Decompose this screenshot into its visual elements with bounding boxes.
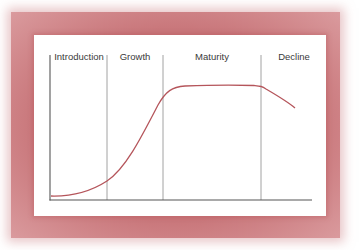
stage-label-maturity: Maturity <box>195 51 229 62</box>
stage-label-introduction: Introduction <box>54 51 104 62</box>
sales-curve <box>51 85 295 196</box>
product-life-cycle-diagram <box>0 0 359 250</box>
stage-label-growth: Growth <box>120 51 151 62</box>
stage-label-decline: Decline <box>278 51 310 62</box>
